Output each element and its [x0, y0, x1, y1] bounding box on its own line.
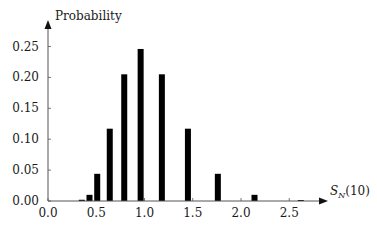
- x-tick-label: 1.5: [183, 206, 202, 220]
- y-tick-label: 0.20: [12, 70, 39, 84]
- bar-chart: 0.000.050.100.150.200.25 0.00.51.01.52.0…: [0, 0, 377, 229]
- bar: [138, 49, 144, 201]
- y-tick-label: 0.15: [12, 101, 39, 115]
- x-tick-label: 0.5: [87, 206, 106, 220]
- bar: [159, 74, 165, 201]
- y-tick-label: 0.10: [12, 132, 39, 146]
- y-axis-ticks: 0.000.050.100.150.200.25: [12, 40, 51, 209]
- bar: [185, 129, 191, 201]
- bar: [252, 195, 258, 201]
- y-tick-label: 0.00: [12, 194, 39, 208]
- x-tick-label: 2.5: [280, 206, 299, 220]
- bar: [121, 74, 127, 201]
- x-tick-label: 1.0: [135, 206, 154, 220]
- y-tick-label: 0.05: [12, 163, 39, 177]
- x-axis-label: SN(10): [330, 184, 370, 200]
- bar: [86, 195, 92, 201]
- x-tick-label: 0.0: [38, 206, 57, 220]
- x-axis-arrow-icon: [319, 198, 328, 205]
- bars: [79, 49, 304, 201]
- y-axis-arrow-icon: [45, 20, 52, 29]
- bar: [94, 174, 100, 201]
- bar: [107, 129, 113, 201]
- x-tick-label: 2.0: [231, 206, 250, 220]
- bar: [215, 174, 221, 201]
- y-tick-label: 0.25: [12, 40, 39, 54]
- y-axis-label: Probability: [55, 9, 122, 23]
